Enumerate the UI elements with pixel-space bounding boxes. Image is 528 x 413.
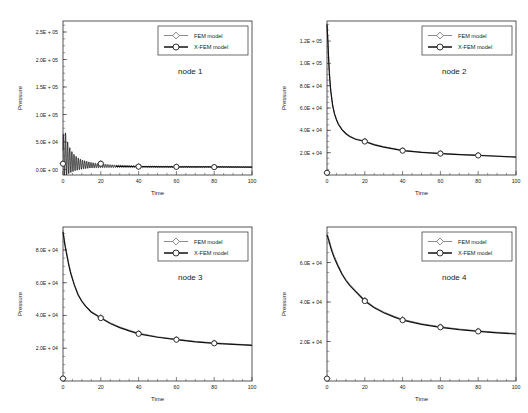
x-tick-label: 60 xyxy=(174,384,180,390)
xfem-marker xyxy=(324,170,329,175)
xfem-marker xyxy=(362,298,367,303)
y-axis-title: Pressure xyxy=(281,291,287,316)
x-axis-title: Time xyxy=(415,190,429,196)
plot-svg: 0204060801002.0E + 044.0E + 046.0E + 04T… xyxy=(264,206,528,413)
xfem-marker xyxy=(60,376,65,381)
x-tick-label: 40 xyxy=(136,384,142,390)
xfem-marker xyxy=(324,376,329,381)
x-tick-label: 0 xyxy=(326,384,329,390)
node-label: node 2 xyxy=(442,67,467,76)
legend-xfem-marker xyxy=(437,250,443,256)
x-tick-label: 60 xyxy=(438,178,444,184)
x-tick-label: 60 xyxy=(174,178,180,184)
xfem-marker xyxy=(438,151,443,156)
y-tick-label: 1.0E + 05 xyxy=(300,60,322,66)
xfem-curve xyxy=(63,133,252,175)
plot-panel-node-3: 0204060801002.0E + 044.0E + 046.0E + 048… xyxy=(0,206,264,413)
plot-panel-node-2: 0204060801002.0E + 044.0E + 046.0E + 048… xyxy=(264,0,528,206)
y-tick-label: 6.0E + 04 xyxy=(300,260,322,266)
x-tick-label: 20 xyxy=(98,178,104,184)
legend-xfem-marker xyxy=(173,250,179,256)
y-tick-label: 6.0E + 04 xyxy=(36,280,58,286)
xfem-marker xyxy=(212,341,217,346)
plot-svg: 0204060801000.0E + 005.0E + 041.0E + 051… xyxy=(0,0,264,206)
x-axis-title: Time xyxy=(151,190,165,196)
x-tick-label: 100 xyxy=(512,384,521,390)
x-tick-label: 40 xyxy=(136,178,142,184)
y-tick-label: 5.0E + 04 xyxy=(36,139,58,145)
legend-xfem-marker xyxy=(173,44,179,50)
x-tick-label: 20 xyxy=(362,384,368,390)
legend-box xyxy=(158,232,248,261)
y-tick-label: 2.0E + 04 xyxy=(36,345,58,351)
legend-fem-label: FEM model xyxy=(458,239,487,245)
y-axis-title: Pressure xyxy=(281,85,287,110)
y-tick-label: 4.0E + 04 xyxy=(300,299,322,305)
node-label: node 3 xyxy=(178,273,203,282)
node-label: node 1 xyxy=(178,67,203,76)
x-axis-title: Time xyxy=(151,396,165,402)
xfem-marker xyxy=(60,161,65,166)
legend-xfem-label: X-FEM model xyxy=(458,250,492,256)
y-axis-title: Pressure xyxy=(17,85,23,110)
y-tick-label: 1.2E + 05 xyxy=(300,38,322,44)
xfem-marker xyxy=(438,325,443,330)
legend-xfem-label: X-FEM model xyxy=(458,44,492,50)
y-tick-label: 2.5E + 05 xyxy=(36,29,58,35)
legend-xfem-marker xyxy=(437,44,443,50)
xfem-marker xyxy=(476,153,481,158)
legend-box xyxy=(422,232,512,261)
x-tick-label: 100 xyxy=(248,384,257,390)
y-tick-label: 2.0E + 05 xyxy=(36,57,58,63)
plot-svg: 0204060801002.0E + 044.0E + 046.0E + 048… xyxy=(0,206,264,413)
legend-xfem-label: X-FEM model xyxy=(194,44,228,50)
y-tick-label: 2.0E + 04 xyxy=(300,339,322,345)
x-tick-label: 80 xyxy=(475,384,481,390)
xfem-marker xyxy=(476,329,481,334)
figure-container: 0204060801000.0E + 005.0E + 041.0E + 051… xyxy=(0,0,528,413)
xfem-marker xyxy=(174,164,179,169)
xfem-marker xyxy=(400,318,405,323)
xfem-marker xyxy=(98,161,103,166)
xfem-marker xyxy=(362,139,367,144)
node-label: node 4 xyxy=(442,273,467,282)
x-tick-label: 0 xyxy=(62,384,65,390)
plot-svg: 0204060801002.0E + 044.0E + 046.0E + 048… xyxy=(264,0,528,206)
x-tick-label: 40 xyxy=(400,384,406,390)
x-tick-label: 20 xyxy=(362,178,368,184)
xfem-marker xyxy=(174,337,179,342)
y-tick-label: 0.0E + 00 xyxy=(36,167,58,173)
y-tick-label: 4.0E + 04 xyxy=(300,127,322,133)
legend-box xyxy=(422,26,512,55)
x-tick-label: 40 xyxy=(400,178,406,184)
x-tick-label: 0 xyxy=(326,178,329,184)
xfem-marker xyxy=(136,164,141,169)
y-tick-label: 2.0E + 04 xyxy=(300,150,322,156)
x-axis-title: Time xyxy=(415,396,429,402)
legend-fem-label: FEM model xyxy=(194,33,223,39)
y-tick-label: 1.5E + 05 xyxy=(36,84,58,90)
xfem-marker xyxy=(212,165,217,170)
legend-box xyxy=(158,26,248,55)
x-tick-label: 80 xyxy=(211,178,217,184)
y-axis-title: Pressure xyxy=(17,291,23,316)
y-tick-label: 4.0E + 04 xyxy=(36,312,58,318)
plot-panel-node-4: 0204060801002.0E + 044.0E + 046.0E + 04T… xyxy=(264,206,528,413)
plot-panel-node-1: 0204060801000.0E + 005.0E + 041.0E + 051… xyxy=(0,0,264,206)
xfem-marker xyxy=(136,331,141,336)
y-tick-label: 6.0E + 04 xyxy=(300,105,322,111)
y-tick-label: 1.0E + 05 xyxy=(36,112,58,118)
x-tick-label: 80 xyxy=(475,178,481,184)
legend-fem-label: FEM model xyxy=(458,33,487,39)
x-tick-label: 20 xyxy=(98,384,104,390)
legend-fem-label: FEM model xyxy=(194,239,223,245)
fem-curve xyxy=(63,132,252,175)
x-tick-label: 0 xyxy=(62,178,65,184)
x-tick-label: 80 xyxy=(211,384,217,390)
y-tick-label: 8.0E + 04 xyxy=(300,83,322,89)
xfem-marker xyxy=(400,148,405,153)
x-tick-label: 100 xyxy=(512,178,521,184)
x-tick-label: 100 xyxy=(248,178,257,184)
y-tick-label: 8.0E + 04 xyxy=(36,247,58,253)
xfem-marker xyxy=(98,315,103,320)
